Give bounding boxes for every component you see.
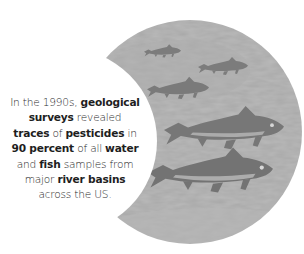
caption-run: major (25, 173, 58, 185)
caption-emphasis: fish (39, 158, 60, 170)
caption-text: In the 1990s, geologicalsurveys revealed… (4, 95, 146, 203)
caption-run: across the US. (38, 188, 111, 200)
caption-emphasis: geological (81, 96, 140, 108)
caption-line: and fish samples from (4, 157, 146, 172)
caption-run: and (17, 158, 40, 170)
caption-line: surveys revealed (4, 110, 146, 125)
caption-run: in (124, 127, 136, 139)
caption-emphasis: pesticides (65, 127, 124, 139)
caption-emphasis: river basins (57, 173, 125, 185)
caption-line: major river basins (4, 172, 146, 187)
caption-line: 90 percent of all water (4, 141, 146, 156)
caption-run: In the 1990s, (10, 96, 80, 108)
infographic-panel: In the 1990s, geologicalsurveys revealed… (0, 0, 304, 254)
caption-line: across the US. (4, 187, 146, 202)
caption-emphasis: surveys (29, 111, 74, 123)
caption-run: revealed (74, 111, 122, 123)
caption-run: of all (74, 142, 105, 154)
caption-emphasis: traces (13, 127, 49, 139)
caption-run: samples from (60, 158, 133, 170)
caption-run: of (49, 127, 65, 139)
caption-line: traces of pesticides in (4, 126, 146, 141)
caption-emphasis: 90 percent (11, 142, 74, 154)
caption-line: In the 1990s, geological (4, 95, 146, 110)
caption-emphasis: water (105, 142, 138, 154)
